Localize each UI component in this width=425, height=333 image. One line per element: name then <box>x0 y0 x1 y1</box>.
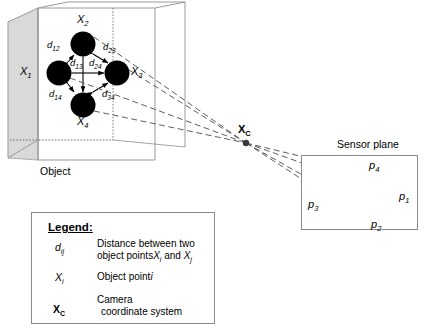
distance-label-d14: d14 <box>49 89 62 101</box>
distance-label-d24: d24 <box>89 58 102 70</box>
distance-label-d23: d23 <box>103 42 116 54</box>
image-point-label-p2: p2 <box>371 219 381 233</box>
object-point-X1 <box>47 61 72 86</box>
camera-center-node <box>243 140 249 146</box>
legend-title: Legend: <box>48 221 93 233</box>
object-box <box>8 2 185 160</box>
object-point-label-X1: X1 <box>20 66 32 80</box>
distance-label-d12: d12 <box>47 40 60 52</box>
legend-description-camera: Camera coordinate system <box>97 294 182 318</box>
object-point-label-X3: X3 <box>131 66 143 80</box>
object-box-bottom-right-diagonal <box>113 140 185 147</box>
object-box-left-face <box>8 8 38 158</box>
sensor-plane-label: Sensor plane <box>337 139 399 150</box>
object-point-X4 <box>71 93 96 118</box>
image-point-label-p1: p1 <box>399 191 409 205</box>
object-box-top-edge <box>38 2 68 8</box>
object-point-X2 <box>71 32 96 57</box>
object-box-right-top-edge <box>155 2 185 8</box>
figure-root: Sensor plane X1 X2 X3 X4 d12 d13 d14 d23… <box>0 0 425 333</box>
legend-description-object-point: Object pointi <box>97 271 153 283</box>
legend-description-distance: Distance between two object pointsXi and… <box>97 238 195 264</box>
image-point-label-p3: p3 <box>308 199 318 213</box>
object-label: Object <box>40 166 70 177</box>
distance-label-d13: d13 <box>70 58 83 70</box>
legend-symbol-distance: dij <box>55 241 64 255</box>
object-point-X3 <box>105 61 130 86</box>
distance-line-d14 <box>68 84 74 92</box>
image-point-label-p4: p4 <box>369 160 379 174</box>
object-point-label-X2: X2 <box>77 14 89 28</box>
legend-symbol-object-point: Xi <box>55 271 64 285</box>
camera-center-label: XC <box>238 124 251 138</box>
object-point-label-X4: X4 <box>77 116 89 130</box>
distance-label-d34: d34 <box>102 89 115 101</box>
legend-symbol-camera: XC <box>53 303 65 317</box>
